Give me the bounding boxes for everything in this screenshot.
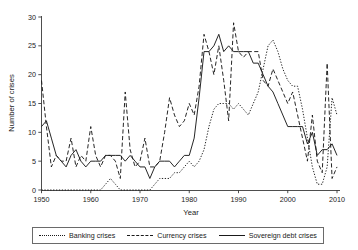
x-tick-label: 2010 bbox=[329, 195, 345, 204]
legend-item-banking-crises[interactable]: Banking crises bbox=[39, 232, 115, 240]
y-axis-title: Number of crises bbox=[7, 74, 16, 132]
y-tick-label: 5 bbox=[32, 157, 36, 166]
x-tick-label: 1960 bbox=[83, 195, 99, 204]
x-tick-label: 1970 bbox=[132, 195, 148, 204]
y-tick-label: 10 bbox=[28, 128, 36, 137]
legend-item-sovereign-debt-crises[interactable]: Sovereign debt crises bbox=[219, 232, 317, 240]
legend-item-currency-crises[interactable]: Currency crises bbox=[127, 232, 206, 240]
y-tick-label: 0 bbox=[32, 186, 36, 195]
x-tick-label: 1980 bbox=[181, 195, 197, 204]
crises-chart-figure: 051015202530 195019601970198019902000201… bbox=[0, 0, 358, 250]
series-line-banking-crises bbox=[42, 40, 338, 190]
y-tick-label: 30 bbox=[28, 13, 36, 22]
x-tick-label: 1990 bbox=[231, 195, 247, 204]
chart-plot-area: 051015202530 195019601970198019902000201… bbox=[0, 0, 358, 250]
legend-line-swatch-icon bbox=[39, 235, 65, 237]
series-line-sovereign-debt-crises bbox=[42, 34, 338, 178]
chart-legend: Banking crisesCurrency crisesSovereign d… bbox=[32, 227, 324, 244]
legend-item-label: Banking crises bbox=[69, 232, 115, 240]
legend-line-swatch-icon bbox=[127, 235, 153, 237]
x-axis-ticks: 1950196019701980199020002010 bbox=[34, 190, 346, 204]
y-tick-label: 15 bbox=[28, 99, 36, 108]
x-tick-label: 1950 bbox=[34, 195, 50, 204]
x-axis-title: Year bbox=[183, 208, 199, 217]
legend-item-label: Sovereign debt crises bbox=[249, 232, 317, 240]
legend-line-swatch-icon bbox=[219, 235, 245, 237]
y-axis-ticks: 051015202530 bbox=[28, 13, 42, 195]
legend-item-label: Currency crises bbox=[157, 232, 206, 240]
y-tick-label: 25 bbox=[28, 41, 36, 50]
x-tick-label: 2000 bbox=[280, 195, 296, 204]
data-series-group bbox=[42, 23, 338, 190]
y-tick-label: 20 bbox=[28, 70, 36, 79]
